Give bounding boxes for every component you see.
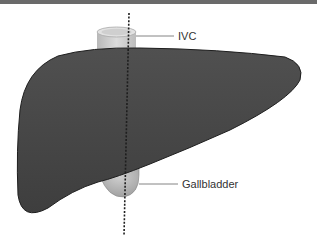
ivc-label: IVC xyxy=(178,30,196,42)
liver-shape xyxy=(17,48,301,213)
gallbladder-label: Gallbladder xyxy=(182,178,238,190)
liver-diagram xyxy=(0,0,317,247)
